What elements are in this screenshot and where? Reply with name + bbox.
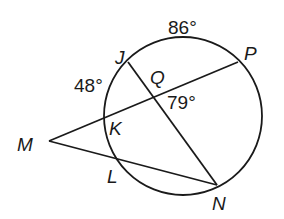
angle-label-79: 79°	[167, 92, 196, 113]
arc-label-86: 86°	[168, 17, 197, 38]
chord-JN	[128, 62, 217, 185]
point-label-J: J	[114, 47, 125, 68]
point-label-M: M	[17, 134, 33, 155]
point-label-N: N	[212, 193, 226, 214]
point-label-Q: Q	[150, 67, 165, 88]
point-label-L: L	[107, 166, 118, 187]
arc-label-48: 48°	[74, 75, 103, 96]
circle-diagram: 86° 48° 79° J P Q K M L N	[0, 0, 284, 219]
point-label-P: P	[244, 43, 257, 64]
secant-MP	[49, 62, 238, 141]
point-label-K: K	[109, 118, 123, 139]
circle	[104, 37, 262, 195]
secant-MN	[49, 141, 217, 185]
